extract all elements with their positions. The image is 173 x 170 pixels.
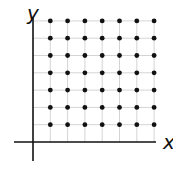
lattice-point xyxy=(83,122,88,127)
lattice-point xyxy=(152,36,157,41)
lattice-point xyxy=(134,105,139,110)
lattice-point xyxy=(100,70,105,75)
x-axis-label: x xyxy=(162,130,173,154)
lattice-point xyxy=(100,88,105,93)
lattice-point xyxy=(117,105,122,110)
lattice-point xyxy=(117,53,122,58)
lattice-point xyxy=(117,122,122,127)
lattice-point xyxy=(100,36,105,41)
lattice-point xyxy=(134,88,139,93)
lattice-point xyxy=(65,36,70,41)
lattice-point xyxy=(65,105,70,110)
lattice-point xyxy=(48,53,53,58)
lattice-point xyxy=(117,19,122,24)
lattice-point xyxy=(65,53,70,58)
lattice-point xyxy=(134,70,139,75)
lattice-point xyxy=(48,70,53,75)
lattice-point xyxy=(152,105,157,110)
lattice-point xyxy=(83,88,88,93)
lattice-point xyxy=(134,53,139,58)
lattice-diagram: x y xyxy=(0,0,173,170)
lattice-point xyxy=(134,122,139,127)
lattice-point xyxy=(48,88,53,93)
lattice-point xyxy=(134,19,139,24)
lattice-point xyxy=(100,19,105,24)
lattice-point xyxy=(117,36,122,41)
lattice-point xyxy=(152,19,157,24)
lattice-point xyxy=(65,70,70,75)
lattice-point xyxy=(48,36,53,41)
lattice-point xyxy=(83,70,88,75)
lattice-point xyxy=(152,88,157,93)
lattice-point xyxy=(48,19,53,24)
lattice-point xyxy=(65,19,70,24)
lattice-point xyxy=(117,70,122,75)
lattice-point xyxy=(100,122,105,127)
lattice-point xyxy=(48,122,53,127)
y-axis-label: y xyxy=(26,1,40,25)
lattice-point xyxy=(100,53,105,58)
lattice-point xyxy=(117,88,122,93)
lattice-point xyxy=(152,122,157,127)
lattice-point xyxy=(65,88,70,93)
lattice-point xyxy=(83,36,88,41)
lattice-point xyxy=(83,105,88,110)
lattice-point xyxy=(83,19,88,24)
lattice-point xyxy=(134,36,139,41)
lattice-point xyxy=(65,122,70,127)
lattice-point xyxy=(152,70,157,75)
lattice-point xyxy=(48,105,53,110)
lattice-point xyxy=(100,105,105,110)
lattice-point xyxy=(152,53,157,58)
lattice-point xyxy=(83,53,88,58)
